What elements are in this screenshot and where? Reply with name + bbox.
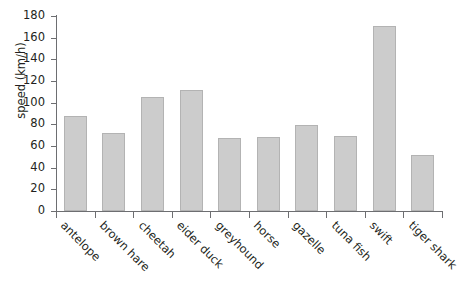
x-axis-label: tiger shark xyxy=(406,219,458,271)
x-axis-label: horse xyxy=(252,219,283,250)
x-axis-tick xyxy=(133,212,134,218)
y-axis-tick-label: 20 xyxy=(0,183,45,195)
y-axis-tick-label: 60 xyxy=(0,140,45,152)
bar xyxy=(180,90,203,211)
bar xyxy=(295,125,318,211)
bar xyxy=(64,116,87,211)
y-axis-tick-label: 0 xyxy=(0,205,45,217)
bar xyxy=(141,97,164,211)
y-axis-tick-label: 180 xyxy=(0,10,45,22)
x-axis-tick xyxy=(326,212,327,218)
y-axis-tick-label: 120 xyxy=(0,75,45,87)
y-axis-tick-label: 160 xyxy=(0,32,45,44)
x-axis-tick xyxy=(210,212,211,218)
y-axis-tick-label: 80 xyxy=(0,118,45,130)
x-axis-tick xyxy=(95,212,96,218)
x-axis-tick xyxy=(365,212,366,218)
x-axis-label: tuna fish xyxy=(329,219,373,263)
bar xyxy=(257,137,280,211)
bar xyxy=(411,155,434,211)
bar xyxy=(373,26,396,211)
y-axis-tick-label: 140 xyxy=(0,53,45,65)
x-axis-label: antelope xyxy=(59,219,103,263)
y-axis-tick-label: 40 xyxy=(0,162,45,174)
bar xyxy=(218,138,241,211)
x-axis-tick xyxy=(288,212,289,218)
bar xyxy=(334,136,357,211)
x-axis-label: gazelle xyxy=(290,219,327,256)
x-axis-tick xyxy=(249,212,250,218)
plot-area xyxy=(56,16,442,211)
bar xyxy=(102,133,125,211)
x-axis-tick xyxy=(442,212,443,218)
x-axis-tick xyxy=(172,212,173,218)
x-axis-label: swift xyxy=(368,219,396,247)
x-axis-tick xyxy=(403,212,404,218)
x-axis-tick xyxy=(56,212,57,218)
y-axis-tick-label: 100 xyxy=(0,97,45,109)
